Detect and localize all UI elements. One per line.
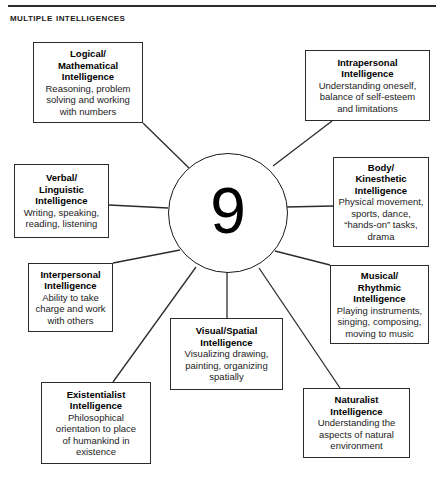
node-title-musical-rhythmic: Musical/ Rhythmic Intelligence: [353, 270, 405, 305]
node-desc-existentialist: Philosophical orientation to place of hu…: [56, 412, 136, 458]
connector-verbal-linguistic: [109, 205, 168, 208]
node-desc-interpersonal: Ability to take charge and work with oth…: [35, 292, 105, 327]
node-desc-naturalist: Understanding the aspects of natural env…: [318, 417, 396, 452]
node-musical-rhythmic: Musical/ Rhythmic IntelligencePlaying in…: [330, 265, 429, 344]
node-desc-visual-spatial: Visualizing drawing, painting, organizin…: [185, 348, 269, 383]
node-verbal-linguistic: Verbal/ Linguistic IntelligenceWriting, …: [14, 164, 109, 238]
node-title-verbal-linguistic: Verbal/ Linguistic Intelligence: [35, 172, 87, 207]
node-interpersonal: Interpersonal IntelligenceAbility to tak…: [28, 263, 113, 332]
header-rule: [8, 5, 436, 7]
node-visual-spatial: Visual/Spatial IntelligenceVisualizing d…: [170, 318, 283, 390]
node-logical-mathematical: Logical/ Mathematical IntelligenceReason…: [33, 42, 143, 123]
node-title-existentialist: Existentialist Intelligence: [67, 389, 126, 412]
node-naturalist: Naturalist IntelligenceUnderstanding the…: [303, 388, 410, 458]
connector-musical-rhythmic: [275, 251, 330, 265]
node-existentialist: Existentialist IntelligencePhilosophical…: [41, 382, 151, 464]
node-desc-intrapersonal: Understanding oneself, balance of self-e…: [319, 80, 417, 115]
center-hub: 9: [168, 153, 288, 273]
node-body-kinesthetic: Body/ Kinesthetic IntelligencePhysical m…: [333, 157, 429, 247]
node-title-interpersonal: Interpersonal Intelligence: [40, 269, 100, 292]
node-title-naturalist: Naturalist Intelligence: [330, 394, 382, 417]
node-desc-verbal-linguistic: Writing, speaking, reading, listening: [24, 207, 99, 230]
connector-body-kinesthetic: [286, 206, 333, 207]
connector-logical-mathematical: [143, 123, 189, 168]
node-desc-musical-rhythmic: Playing instruments, singing, composing,…: [337, 305, 423, 340]
center-hub-label: 9: [210, 179, 246, 243]
node-title-intrapersonal: Intrapersonal Intelligence: [337, 57, 397, 80]
node-title-body-kinesthetic: Body/ Kinesthetic Intelligence: [355, 162, 407, 197]
page-title: Multiple Intelligences: [10, 11, 125, 23]
node-intrapersonal: Intrapersonal IntelligenceUnderstanding …: [305, 50, 430, 121]
node-title-logical-mathematical: Logical/ Mathematical Intelligence: [58, 48, 118, 83]
node-desc-logical-mathematical: Reasoning, problem solving and working w…: [45, 83, 130, 118]
connector-intrapersonal: [273, 121, 332, 166]
diagram-canvas: Multiple Intelligences 9 Logical/ Mathem…: [0, 0, 443, 477]
node-title-visual-spatial: Visual/Spatial Intelligence: [196, 325, 258, 348]
connector-interpersonal: [113, 250, 180, 263]
node-desc-body-kinesthetic: Physical movement, sports, dance, “hands…: [338, 196, 423, 242]
